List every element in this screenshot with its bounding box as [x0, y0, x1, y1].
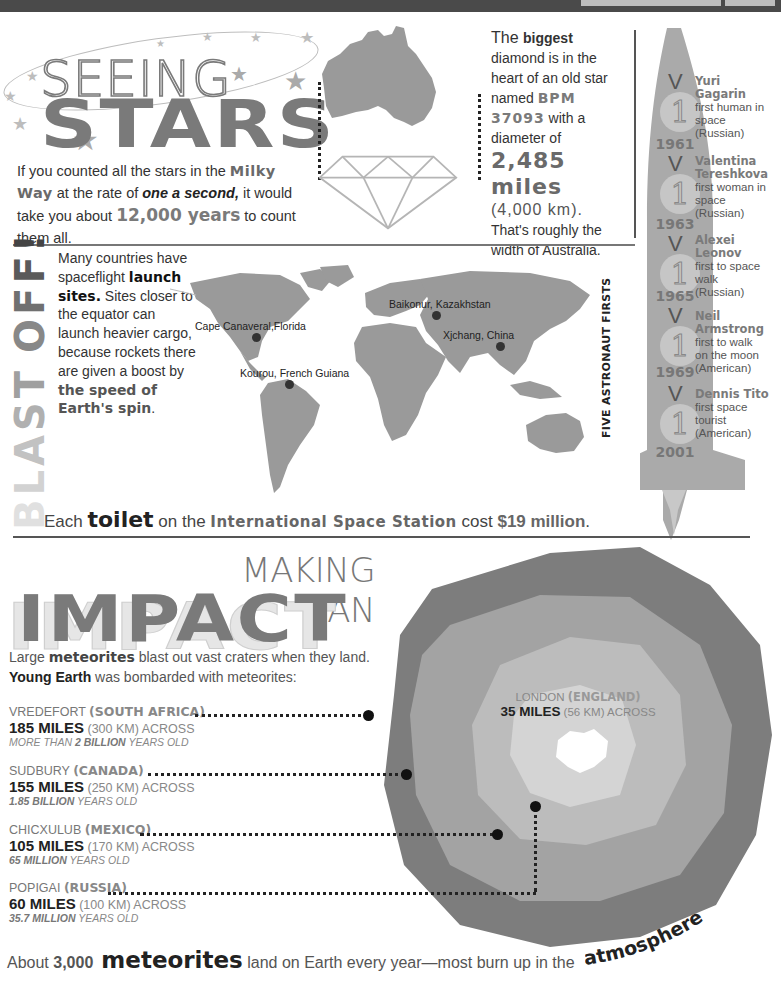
medal-2001: V 1 — [654, 384, 700, 444]
dotted-connector — [108, 892, 536, 895]
stars-fact: If you counted all the stars in the Milk… — [17, 160, 307, 249]
australia-map — [320, 26, 440, 136]
divider — [13, 536, 750, 538]
diamond-fact: The biggest diamond is in the heart of a… — [491, 28, 621, 260]
astronaut-item: Neil Armstrong first to walk on the moon… — [695, 310, 781, 375]
astronaut-item: Valentina Tereshkova first woman in spac… — [695, 155, 781, 220]
top-bar-tab — [725, 0, 775, 6]
dotted-connector — [195, 714, 367, 717]
star-icon: ★ — [230, 62, 248, 86]
astronaut-item: Dennis Tito first space tourist (America… — [695, 388, 781, 440]
star-icon: ★ — [300, 28, 314, 47]
site-marker — [285, 380, 294, 389]
toilet-fact: Each toilet on the International Space S… — [44, 507, 590, 532]
crater-chicxulub: CHICXULUB (MEXICO) 105 MILES (170 KM) AC… — [9, 822, 249, 866]
medal-1963: V 1 — [654, 154, 700, 214]
top-bar — [0, 0, 781, 12]
crater-sudbury: SUDBURY (CANADA) 155 MILES (250 KM) ACRO… — [9, 763, 249, 807]
medal-1965: V 1 — [654, 234, 700, 294]
site-marker — [496, 342, 505, 351]
star-icon: ★ — [26, 68, 39, 84]
stars-title: STARS — [40, 86, 336, 163]
crater-vredefort: VREDEFORT (SOUTH AFRICA) 185 MILES (300 … — [9, 704, 249, 748]
impact-title: IMPACT — [17, 582, 348, 656]
star-icon: ★ — [156, 38, 165, 49]
site-label-cape-canaveral: Cape Canaveral,Florida — [195, 320, 306, 332]
crater-marker — [530, 801, 541, 812]
site-marker — [252, 333, 261, 342]
medal-1969: V 1 — [654, 306, 700, 366]
crater-marker — [401, 769, 412, 780]
london-crater-label: LONDON (ENGLAND) 35 MILES (56 KM) ACROSS — [478, 690, 678, 719]
medal-icon: 1 — [660, 404, 700, 444]
dotted-connector — [148, 773, 404, 776]
top-bar-tab — [581, 0, 721, 6]
divider — [634, 30, 636, 238]
diamond-icon — [318, 152, 458, 232]
site-label-kourou: Kourou, French Guiana — [240, 367, 349, 379]
dotted-connector — [478, 94, 481, 180]
year-2001: 2001 — [645, 444, 705, 460]
dotted-connector — [534, 808, 537, 892]
medal-icon: 1 — [660, 92, 700, 132]
meteorite-fact: About 3,000 meteorites land on Earth eve… — [7, 947, 575, 973]
star-icon: ★ — [202, 30, 213, 44]
medal-1961: V 1 — [654, 72, 700, 132]
blast-off-title: BLASTOFF! — [7, 230, 53, 530]
dotted-connector — [140, 833, 494, 836]
astronaut-item: Yuri Gagarin first human in space (Russi… — [695, 75, 781, 140]
astronaut-item: Alexei Leonov first to space walk (Russi… — [695, 234, 781, 299]
star-icon: ★ — [12, 113, 28, 135]
svg-text:atmosphere: atmosphere — [585, 905, 706, 969]
divider — [13, 244, 635, 246]
medal-icon: 1 — [660, 174, 700, 214]
site-label-baikonur: Baikonur, Kazakhstan — [389, 298, 491, 310]
atmosphere-curved-text: atmosphere — [585, 840, 781, 980]
star-icon: ★ — [250, 30, 262, 45]
impact-intro: Large meteorites blast out vast craters … — [9, 647, 409, 687]
star-icon: ★ — [4, 88, 17, 104]
crater-marker — [492, 829, 503, 840]
site-label-xichang: Xjchang, China — [443, 329, 514, 341]
crater-popigai: POPIGAI (RUSSIA) 60 MILES (100 KM) ACROS… — [9, 880, 249, 924]
medal-icon: 1 — [660, 326, 700, 366]
site-marker — [432, 311, 441, 320]
crater-marker — [363, 710, 374, 721]
